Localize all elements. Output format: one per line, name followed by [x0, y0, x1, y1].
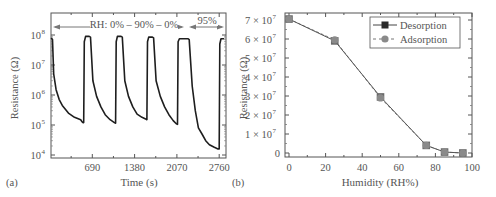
legend-label-desorption: Desorption [400, 20, 447, 31]
chart-b: 01 × 1072 × 1073 × 1074 × 1075 × 1076 × … [232, 13, 480, 189]
x-tick-label: 1380 [124, 162, 145, 173]
chart-a-annotation-2: 95% [197, 15, 217, 26]
arrow-left-icon [53, 25, 60, 30]
svg-text:7: 7 [273, 108, 277, 116]
adsorption-marker [459, 149, 466, 156]
y-tick-label: 7 × 10 [245, 15, 272, 26]
y-tick-exponent: 4 [42, 148, 46, 156]
chart-a-y-label: Resistance (Ω) [9, 56, 21, 119]
svg-text:7: 7 [273, 13, 277, 21]
y-tick-label: 10 [31, 90, 42, 101]
figure: 104105106107108 690138020702760 RH: 0% –… [0, 0, 496, 197]
x-tick-label: 2760 [209, 162, 230, 173]
chart-a-resistance-curve [51, 36, 224, 148]
svg-text:7: 7 [273, 89, 277, 97]
svg-text:7: 7 [273, 32, 277, 40]
x-tick-label: 0 [286, 162, 291, 173]
adsorption-marker [285, 15, 292, 22]
chart-a-annotation-1: RH: 0% – 90% – 0% [90, 19, 179, 30]
chart-a-annotation-rh-cycle: RH: 0% – 90% – 0% [53, 19, 184, 31]
y-tick-label: 10 [31, 120, 42, 131]
y-tick-exponent: 5 [42, 118, 46, 126]
y-tick-label: 1 × 10 [245, 129, 272, 140]
panel-b-label: (b) [232, 177, 245, 189]
y-tick-label: 10 [31, 30, 42, 41]
square-marker-icon [382, 22, 389, 29]
x-tick-label: 20 [320, 162, 331, 173]
adsorption-marker [377, 94, 384, 101]
y-tick-label: 0 [275, 148, 280, 159]
adsorption-marker [423, 142, 430, 149]
y-tick-label: 10 [31, 150, 42, 161]
y-tick-label: 5 × 10 [245, 53, 272, 64]
y-tick-label: 10 [31, 60, 42, 71]
adsorption-marker [331, 36, 338, 43]
y-tick-label: 3 × 10 [245, 91, 272, 102]
legend-label-adsorption: Adsorption [400, 34, 448, 45]
chart-b-y-label: Resistance (Ω) [238, 56, 250, 119]
adsorption-marker [441, 148, 448, 155]
y-tick-exponent: 7 [42, 58, 46, 66]
chart-b-legend: Desorption Adsorption [370, 17, 460, 48]
chart-b-x-label: Humidity (RH%) [342, 176, 419, 189]
svg-text:7: 7 [273, 127, 277, 135]
y-tick-label: 2 × 10 [245, 110, 272, 121]
chart-a-x-label: Time (s) [120, 176, 158, 189]
svg-text:7: 7 [273, 51, 277, 59]
x-tick-label: 40 [357, 162, 368, 173]
y-tick-label: 4 × 10 [245, 72, 272, 83]
x-tick-label: 60 [394, 162, 405, 173]
svg-text:7: 7 [273, 70, 277, 78]
arrow-left-icon [189, 25, 196, 30]
chart-a: 104105106107108 690138020702760 RH: 0% –… [6, 13, 230, 189]
x-tick-label: 80 [430, 162, 441, 173]
circle-marker-icon [381, 35, 388, 42]
panel-a-label: (a) [6, 177, 18, 189]
y-tick-exponent: 6 [42, 88, 46, 96]
x-tick-label: 100 [464, 162, 480, 173]
x-tick-label: 690 [84, 162, 100, 173]
y-tick-exponent: 8 [42, 28, 46, 36]
x-tick-label: 2070 [166, 162, 187, 173]
chart-a-annotation-95: 95% [189, 15, 224, 30]
arrow-right-icon [217, 25, 224, 30]
y-tick-label: 6 × 10 [245, 34, 272, 45]
chart-a-plot-frame [51, 13, 226, 158]
